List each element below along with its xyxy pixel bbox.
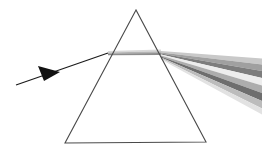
dispersion-fan [161,51,262,115]
internal-beam [108,49,161,55]
prism-dispersion-figure [0,0,262,153]
ray-direction-arrowhead [38,66,60,81]
prism-outline [65,10,206,143]
diagram-canvas [0,0,262,153]
incident-ray [16,53,108,85]
